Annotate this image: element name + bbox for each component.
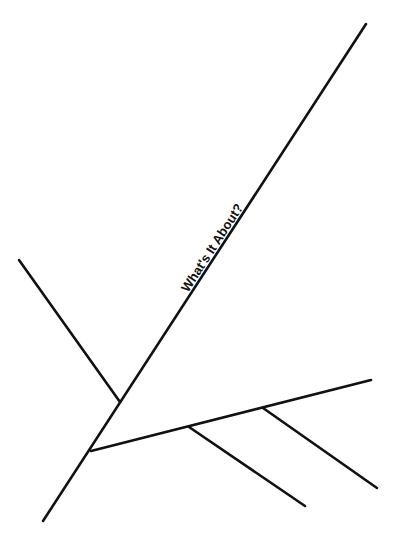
fishbone-diagram: What's It About? (0, 0, 393, 538)
lower-right-branch (91, 380, 371, 451)
sub-branch-2 (263, 408, 377, 488)
upper-left-branch (19, 260, 120, 402)
main-line-label: What's It About? (178, 201, 246, 295)
sub-branch-1 (189, 427, 305, 506)
